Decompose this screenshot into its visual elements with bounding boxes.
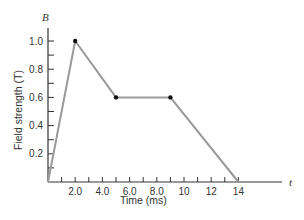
x-tick-label: 4.0: [95, 186, 109, 197]
x-axis-title: Time (ms): [120, 194, 167, 206]
ticks: [48, 41, 238, 182]
x-axis-symbol: t: [289, 176, 293, 188]
data-point-marker: [73, 39, 77, 43]
y-tick-label: 1.0: [29, 36, 43, 47]
y-tick-label: 0.6: [29, 92, 43, 103]
x-tick-label: 12: [206, 186, 218, 197]
y-tick-label: 0.2: [29, 148, 43, 159]
y-axis-symbol: B: [42, 11, 49, 23]
x-tick-label: 2.0: [68, 186, 82, 197]
y-tick-label: 0.8: [29, 64, 43, 75]
y-tick-label: 0.4: [29, 120, 43, 131]
x-tick-label: 14: [233, 186, 245, 197]
data-series: [48, 39, 238, 182]
field-strength-chart: 2.04.06.08.01012140.20.40.60.81.0 Time (…: [0, 0, 304, 220]
y-axis-title: Field strength (T): [12, 70, 24, 150]
x-tick-label: 10: [178, 186, 190, 197]
data-point-marker: [114, 95, 118, 99]
series-line: [48, 41, 238, 182]
data-point-marker: [168, 95, 172, 99]
